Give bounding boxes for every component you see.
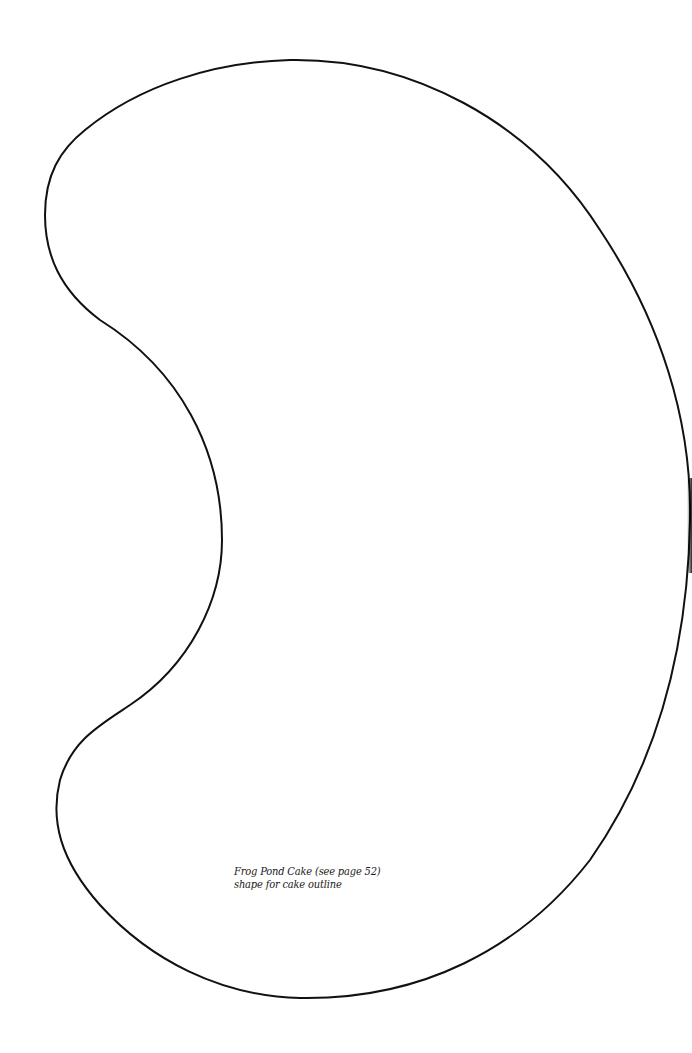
- template-page: Frog Pond Cake (see page 52) shape for c…: [0, 0, 692, 1053]
- caption-subtitle: shape for cake outline: [234, 878, 380, 891]
- template-caption: Frog Pond Cake (see page 52) shape for c…: [234, 865, 380, 891]
- cake-outline-shape: [0, 0, 692, 1053]
- kidney-outline-path: [45, 60, 690, 998]
- page-edge-scan-shadow: [687, 478, 692, 573]
